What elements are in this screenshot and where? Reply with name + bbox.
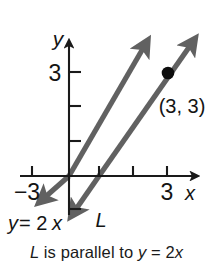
- line-y2x-label: y = 2 x: [6, 212, 63, 234]
- x-axis-label: x: [184, 182, 196, 204]
- coordinate-graph-figure: y x 3 −3 3 (3, 3) L y = 2 x: [0, 0, 213, 273]
- point-3-3-dot: [162, 67, 175, 80]
- line-y2x-label-y: y: [6, 212, 19, 234]
- caption-middle-text: is parallel to: [39, 243, 138, 261]
- line-y2x-label-x: x: [51, 212, 63, 234]
- caption-equation-mid: = 2: [146, 243, 174, 261]
- y-axis-label: y: [51, 27, 65, 50]
- point-3-3-label: (3, 3): [159, 95, 206, 117]
- line-y2x-lower-ray: [43, 176, 69, 199]
- y-tick-label-3: 3: [49, 60, 62, 86]
- line-y2x-label-eq: = 2: [19, 212, 47, 234]
- caption-equation-x: x: [175, 243, 183, 261]
- graph-svg: y x 3 −3 3 (3, 3) L y = 2 x: [0, 0, 213, 273]
- line-L-lower-ray: [74, 176, 99, 212]
- figure-caption: L is parallel to y = 2x: [0, 243, 213, 262]
- caption-line-name: L: [30, 243, 39, 261]
- line-y2x-upper-ray: [69, 45, 145, 176]
- x-tick-label-minus3: −3: [14, 179, 40, 205]
- line-L-label: L: [95, 209, 106, 231]
- x-tick-label-3: 3: [161, 179, 174, 205]
